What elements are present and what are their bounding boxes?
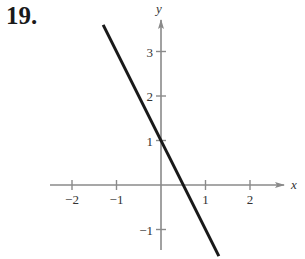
y-tick-label: 2	[147, 89, 154, 104]
x-axis-label: x	[290, 177, 297, 192]
y-tick-label: 1	[147, 134, 154, 149]
coordinate-plot: x y −2−112−1123	[0, 0, 305, 259]
x-tick-label: −2	[65, 192, 79, 207]
x-tick-label: −1	[110, 192, 124, 207]
y-tick-label: −1	[139, 223, 153, 238]
y-axis-label: y	[154, 1, 162, 16]
y-tick-label: 3	[147, 45, 154, 60]
x-tick-label: 2	[247, 192, 254, 207]
ticks: −2−112−1123	[65, 45, 253, 238]
x-tick-label: 1	[202, 192, 209, 207]
axes: x y	[50, 1, 297, 250]
